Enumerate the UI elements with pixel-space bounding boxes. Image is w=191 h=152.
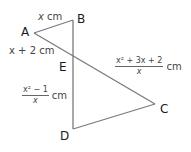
label-ab-unit: cm <box>44 11 62 22</box>
label-ec-unit: cm <box>166 61 181 72</box>
label-ec-fraction: x² + 3x + 2 x <box>115 57 163 76</box>
label-ed-unit: cm <box>52 90 67 101</box>
label-ab: x cm <box>38 12 62 22</box>
vertex-label-d: D <box>60 130 69 142</box>
vertex-label-c: C <box>160 103 168 115</box>
triangles-figure <box>0 0 191 152</box>
label-ec-denominator: x <box>137 67 142 76</box>
label-ec: x² + 3x + 2 x cm <box>115 57 182 76</box>
vertex-label-e: E <box>59 61 67 73</box>
label-ec-numerator: x² + 3x + 2 <box>115 57 163 67</box>
label-ed-numerator: x² − 1 <box>22 86 49 96</box>
segment-dc <box>73 104 155 129</box>
vertex-label-b: B <box>77 13 85 25</box>
label-ed: x² − 1 x cm <box>22 86 67 105</box>
vertex-label-a: A <box>21 26 29 38</box>
label-ed-denominator: x <box>33 96 38 105</box>
label-ed-fraction: x² − 1 x <box>22 86 49 105</box>
label-ae: x + 2 cm <box>9 46 54 56</box>
